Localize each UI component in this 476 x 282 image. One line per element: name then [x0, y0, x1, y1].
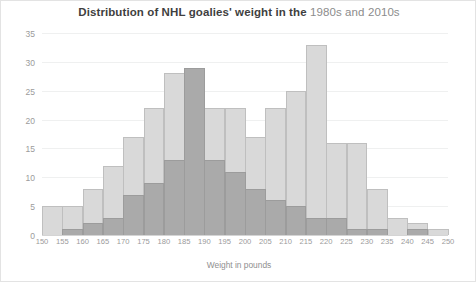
bar-2010s-155: [62, 229, 83, 235]
bar-2010s-170: [123, 195, 144, 235]
x-tick-175: 175: [133, 237, 155, 246]
x-tick-190: 190: [193, 237, 215, 246]
x-tick-230: 230: [356, 237, 378, 246]
x-tick-250: 250: [437, 237, 459, 246]
y-tick-25: 25: [9, 87, 35, 97]
y-tick-30: 30: [9, 58, 35, 68]
x-tick-210: 210: [275, 237, 297, 246]
x-tick-160: 160: [72, 237, 94, 246]
x-tick-165: 165: [92, 237, 114, 246]
x-tick-245: 245: [417, 237, 439, 246]
x-tick-235: 235: [376, 237, 398, 246]
bar-2010s-190: [204, 160, 225, 235]
bar-2010s-200: [245, 189, 266, 235]
x-tick-200: 200: [234, 237, 256, 246]
series-2010s-bars: [42, 33, 448, 235]
bar-2010s-185: [184, 68, 205, 235]
x-axis-tick-labels: 1501551601651701751801851901952002052102…: [42, 237, 448, 249]
x-tick-150: 150: [31, 237, 53, 246]
x-axis-title: Weight in pounds: [1, 260, 476, 270]
x-tick-155: 155: [51, 237, 73, 246]
x-tick-195: 195: [214, 237, 236, 246]
bar-2010s-180: [164, 160, 185, 235]
chart-container: Distribution of NHL goalies' weight in t…: [0, 0, 476, 282]
bar-2010s-165: [103, 218, 124, 235]
y-tick-20: 20: [9, 116, 35, 126]
x-tick-185: 185: [173, 237, 195, 246]
gridline-0: [42, 235, 448, 236]
x-tick-180: 180: [153, 237, 175, 246]
y-tick-15: 15: [9, 144, 35, 154]
bar-2010s-230: [367, 229, 388, 235]
x-tick-225: 225: [336, 237, 358, 246]
bar-2010s-215: [306, 218, 327, 235]
y-tick-10: 10: [9, 173, 35, 183]
x-tick-170: 170: [112, 237, 134, 246]
x-tick-215: 215: [295, 237, 317, 246]
bar-2010s-160: [83, 223, 104, 235]
y-tick-35: 35: [9, 29, 35, 39]
bar-2010s-195: [225, 172, 246, 235]
bar-2010s-210: [286, 206, 307, 235]
y-tick-5: 5: [9, 202, 35, 212]
x-tick-240: 240: [396, 237, 418, 246]
bar-2010s-205: [265, 200, 286, 235]
bar-2010s-220: [326, 218, 347, 235]
plot-area: [42, 33, 448, 235]
x-tick-220: 220: [315, 237, 337, 246]
bar-2010s-240: [407, 229, 428, 235]
bar-2010s-175: [144, 183, 165, 235]
bar-2010s-225: [347, 229, 368, 235]
x-tick-205: 205: [254, 237, 276, 246]
